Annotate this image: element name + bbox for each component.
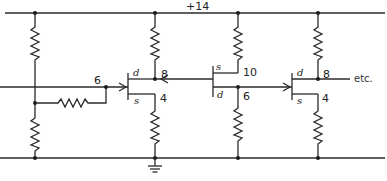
etc-label: etc. <box>354 73 373 84</box>
svg-text:s: s <box>134 95 139 106</box>
svg-text:d: d <box>217 89 223 100</box>
ground-icon <box>148 158 162 172</box>
transistor-t3: d s <box>292 67 350 106</box>
resistor-icon <box>314 13 322 79</box>
resistor-icon <box>31 13 39 158</box>
svg-text:4: 4 <box>160 92 167 105</box>
svg-text:10: 10 <box>243 66 257 79</box>
circuit-diagram: +14 6 d s 8 4 s d <box>0 0 387 181</box>
resistor-icon <box>234 13 242 73</box>
svg-text:8: 8 <box>323 68 330 81</box>
resistor-icon <box>151 94 159 158</box>
svg-text:4: 4 <box>322 92 329 105</box>
svg-text:d: d <box>297 67 303 78</box>
supply-label: +14 <box>186 0 209 13</box>
svg-text:d: d <box>133 67 139 78</box>
resistor-icon <box>234 87 242 158</box>
transistor-t1: d s <box>128 67 155 106</box>
svg-text:s: s <box>297 95 302 106</box>
resistor-icon <box>151 13 159 79</box>
resistor-icon <box>35 87 106 107</box>
svg-text:s: s <box>216 61 221 72</box>
node-label: 6 <box>94 74 101 87</box>
svg-text:6: 6 <box>243 90 250 103</box>
resistor-icon <box>314 94 322 158</box>
